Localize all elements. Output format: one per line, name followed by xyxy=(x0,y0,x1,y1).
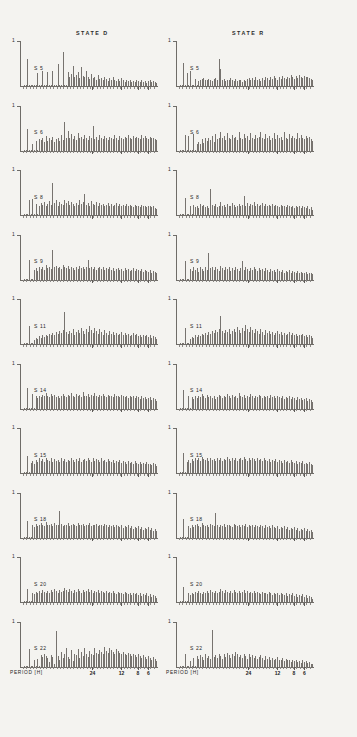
spectrum-bar xyxy=(146,659,147,667)
spectrum-bar xyxy=(254,202,255,215)
spectrum-bar xyxy=(68,72,69,86)
spectrum-bar xyxy=(235,207,236,215)
y-axis-tick-label: 1 xyxy=(168,489,171,495)
spectrum-bar xyxy=(219,59,220,86)
x-axis-minor-tick xyxy=(186,345,187,347)
spectrum-bar xyxy=(210,396,211,409)
spectrum-bar xyxy=(247,461,248,473)
spectrum-bar xyxy=(135,655,136,666)
spectrum-bar xyxy=(244,80,245,86)
x-axis-minor-tick xyxy=(33,345,34,347)
spectrum-bar xyxy=(190,71,191,86)
spectrum-bar xyxy=(27,521,28,537)
x-axis-minor-tick xyxy=(246,409,247,411)
spectrum-bar xyxy=(111,270,112,279)
spectrum-bar xyxy=(46,206,47,215)
spectrum-bar xyxy=(130,271,131,280)
x-axis-minor-tick xyxy=(110,603,111,605)
x-axis-minor-tick xyxy=(273,280,274,282)
spectrum-bar xyxy=(289,270,290,279)
x-axis-minor-tick xyxy=(202,603,203,605)
spectrum-bar xyxy=(104,593,105,602)
spectrum-bar xyxy=(81,397,82,408)
x-axis-minor-tick xyxy=(40,603,41,605)
x-axis-minor-tick xyxy=(50,87,51,89)
x-axis-minor-tick xyxy=(300,538,301,540)
x-axis-minor-tick xyxy=(144,409,145,411)
x-axis-minor-tick xyxy=(202,409,203,411)
spectrum-bar xyxy=(68,592,69,602)
spectrum-bar xyxy=(287,205,288,215)
spectrum-bar xyxy=(198,335,199,344)
spectrum-bar xyxy=(284,526,285,537)
spectrum-bar xyxy=(262,592,263,602)
spectrum-bar xyxy=(114,205,115,215)
spectrum-bar xyxy=(217,139,218,150)
spectrum-bar xyxy=(212,136,213,151)
x-axis-minor-tick xyxy=(124,345,125,347)
spectrum-bar xyxy=(63,265,64,280)
spectrum-bar xyxy=(237,654,238,666)
x-axis-minor-tick xyxy=(103,603,104,605)
spectrum-bar xyxy=(44,337,45,344)
spectrum-bar xyxy=(215,655,216,666)
y-axis-tick-label: 1 xyxy=(12,360,15,366)
x-axis-minor-tick xyxy=(30,345,31,347)
spectrum-bar xyxy=(103,267,104,279)
spectrum-bars xyxy=(21,235,158,280)
x-axis-minor-tick xyxy=(300,603,301,605)
spectrum-bar xyxy=(42,459,43,473)
spectrum-bar xyxy=(269,592,270,602)
spectrum-bar xyxy=(119,593,120,602)
spectrum-bar xyxy=(277,657,278,666)
spectrum-bar xyxy=(52,333,53,344)
spectrum-bar xyxy=(183,214,184,215)
y-axis-tick xyxy=(17,428,21,429)
spectrum-bar xyxy=(133,464,134,473)
x-axis-minor-tick xyxy=(117,603,118,605)
spectrum-panel: 1S 11 xyxy=(176,299,314,345)
x-axis-minor-tick xyxy=(134,216,135,218)
spectrum-bar xyxy=(84,77,85,86)
spectrum-bar xyxy=(205,138,206,151)
x-axis-major-tick xyxy=(304,409,305,412)
x-axis-minor-tick xyxy=(179,345,180,347)
spectrum-bar xyxy=(150,137,151,151)
x-axis-minor-tick xyxy=(26,345,27,347)
x-axis-minor-tick xyxy=(130,87,131,89)
x-axis-major-tick xyxy=(92,409,93,412)
x-axis-minor-tick xyxy=(286,409,287,411)
spectrum-bar xyxy=(130,205,131,215)
spectrum-bar xyxy=(193,338,194,344)
spectrum-bar xyxy=(217,658,218,667)
spectrum-bar xyxy=(207,525,208,538)
spectrum-bar xyxy=(296,660,297,667)
x-axis-minor-tick xyxy=(140,345,141,347)
x-axis-minor-tick xyxy=(73,409,74,411)
spectrum-bar xyxy=(63,394,64,409)
spectrum-bar xyxy=(244,331,245,344)
spectrum-bar xyxy=(91,395,92,409)
x-axis-minor-tick xyxy=(87,474,88,476)
spectrum-bar xyxy=(133,207,134,215)
x-axis-minor-tick xyxy=(63,216,64,218)
spectrum-bar xyxy=(240,206,241,215)
spectrum-bar xyxy=(37,526,38,537)
x-axis-minor-tick xyxy=(209,87,210,89)
spectrum-bar xyxy=(125,137,126,151)
spectrum-bar xyxy=(197,268,198,279)
x-axis-minor-tick xyxy=(117,216,118,218)
spectrum-bar xyxy=(307,401,308,409)
x-axis-minor-tick xyxy=(189,87,190,89)
spectrum-bar xyxy=(180,85,181,86)
spectrum-bar xyxy=(220,656,221,666)
x-axis-minor-tick xyxy=(259,538,260,540)
x-axis-minor-tick xyxy=(150,667,151,669)
spectrum-bar xyxy=(240,138,241,151)
x-axis-major-tick xyxy=(304,280,305,283)
spectrum-bar xyxy=(294,463,295,473)
x-axis-minor-tick xyxy=(249,151,250,153)
x-axis-minor-tick xyxy=(140,151,141,153)
spectrum-bar xyxy=(41,140,42,150)
x-axis-minor-tick xyxy=(73,280,74,282)
